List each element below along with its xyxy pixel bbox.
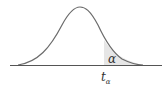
- distribution-curve: [18, 7, 143, 65]
- critical-value-subscript: α: [106, 78, 111, 85]
- tail-area-label: α: [108, 52, 116, 66]
- critical-value-label: tα: [101, 70, 111, 85]
- t-distribution-diagram: [0, 0, 164, 85]
